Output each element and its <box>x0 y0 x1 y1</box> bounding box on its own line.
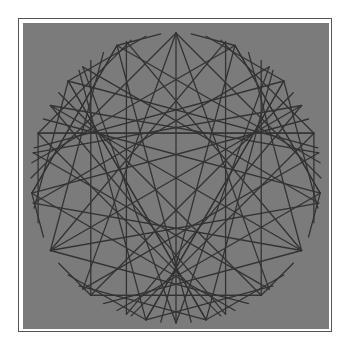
chord <box>68 275 146 320</box>
chord <box>33 67 269 203</box>
envelope-chords <box>31 33 321 323</box>
chord <box>117 34 161 46</box>
chord <box>206 70 273 320</box>
chord <box>83 67 319 203</box>
chord <box>59 93 262 295</box>
string-art-figure <box>0 0 352 353</box>
chord <box>91 93 293 295</box>
